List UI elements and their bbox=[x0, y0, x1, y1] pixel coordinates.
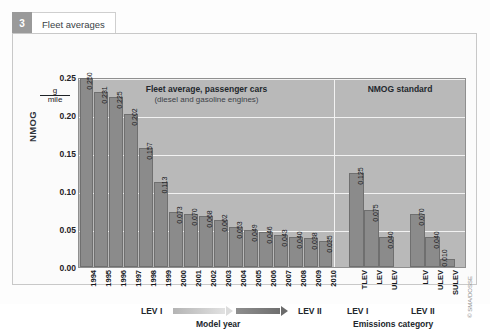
x-axis-title-right: Emissions category bbox=[353, 319, 433, 329]
bar-2008[interactable]: 0.040 bbox=[289, 237, 303, 267]
bar-2000[interactable]: 0.073 bbox=[169, 212, 183, 267]
arrow-head-light-icon bbox=[226, 306, 233, 316]
bar-LEVI-LEV[interactable]: 0.075 bbox=[364, 210, 379, 267]
bar-LEVI-TLEV[interactable]: 0.125 bbox=[349, 173, 364, 268]
x-axis-title-left: Model year bbox=[196, 319, 240, 329]
bar-value-label: 0.250 bbox=[86, 72, 93, 90]
bars-right: 0.1250.0750.0400.0700.0400.010 bbox=[335, 79, 465, 267]
arrow-head-dark-icon bbox=[281, 306, 288, 316]
bar-value-label: 0.035 bbox=[326, 235, 333, 253]
x-tick-1995: 1995 bbox=[104, 270, 113, 287]
x-tick-1999: 1999 bbox=[164, 270, 173, 287]
x-tick-2009: 2009 bbox=[314, 270, 323, 287]
bar-value-label: 0.225 bbox=[116, 91, 123, 109]
copyright-credit: © SMA/DOSSE bbox=[467, 276, 473, 318]
bar-value-label: 0.231 bbox=[101, 87, 108, 105]
x-tick-2005: 2005 bbox=[254, 270, 263, 287]
bar-value-label: 0.070 bbox=[418, 208, 425, 226]
x-tick-1997: 1997 bbox=[134, 270, 143, 287]
x-tick-LEVI-TLEV: TLEV bbox=[360, 270, 369, 289]
bar-value-label: 0.125 bbox=[357, 167, 364, 185]
bar-1995[interactable]: 0.231 bbox=[94, 92, 108, 267]
bar-value-label: 0.038 bbox=[311, 233, 318, 251]
bar-2010[interactable]: 0.035 bbox=[319, 241, 333, 267]
plot-area: Fleet average, passenger cars (diesel an… bbox=[78, 78, 466, 268]
bar-value-label: 0.040 bbox=[296, 231, 303, 249]
bar-value-label: 0.202 bbox=[131, 109, 138, 127]
bar-value-label: 0.157 bbox=[146, 143, 153, 161]
x-tick-2008: 2008 bbox=[299, 270, 308, 287]
bar-2002[interactable]: 0.068 bbox=[199, 216, 213, 267]
bar-LEVII-SULEV[interactable]: 0.010 bbox=[440, 259, 455, 267]
x-tick-2006: 2006 bbox=[269, 270, 278, 287]
bar-2001[interactable]: 0.070 bbox=[184, 214, 198, 267]
x-tick-LEVII-ULEV: ULEV bbox=[436, 270, 445, 290]
y-axis-unit: g mile bbox=[40, 87, 70, 105]
x-tick-LEVII-LEV: LEV bbox=[421, 270, 430, 285]
y-tick-3: 0.10 bbox=[40, 187, 76, 197]
x-tick-2000: 2000 bbox=[179, 270, 188, 287]
bar-value-label: 0.062 bbox=[221, 214, 228, 232]
x-tick-2002: 2002 bbox=[209, 270, 218, 287]
x-tick-2007: 2007 bbox=[284, 270, 293, 287]
bar-2009[interactable]: 0.038 bbox=[304, 238, 318, 267]
bar-2006[interactable]: 0.046 bbox=[259, 232, 273, 267]
panel-fleet-average: Fleet average, passenger cars (diesel an… bbox=[79, 79, 334, 267]
bar-LEVI-ULEV[interactable]: 0.040 bbox=[379, 237, 394, 267]
arrow-lev1-icon bbox=[173, 308, 225, 314]
x-tick-1998: 1998 bbox=[149, 270, 158, 287]
unit-denominator: mile bbox=[40, 95, 70, 104]
bar-value-label: 0.049 bbox=[251, 224, 258, 242]
bar-value-label: 0.040 bbox=[387, 231, 394, 249]
bar-value-label: 0.073 bbox=[176, 206, 183, 224]
bar-value-label: 0.113 bbox=[161, 176, 168, 193]
bar-value-label: 0.070 bbox=[191, 208, 198, 226]
x-tick-LEVII-SULEV: SULEV bbox=[451, 270, 460, 295]
bar-LEVII-ULEV[interactable]: 0.040 bbox=[425, 237, 440, 267]
tab-strip: 3 Fleet averages bbox=[12, 12, 116, 34]
bar-LEVII-LEV[interactable]: 0.070 bbox=[410, 214, 425, 267]
bar-1994[interactable]: 0.250 bbox=[80, 78, 94, 267]
x-tick-1994: 1994 bbox=[89, 270, 98, 287]
x-tick-1996: 1996 bbox=[119, 270, 128, 287]
era-label-end: LEV II bbox=[298, 306, 322, 316]
bar-2005[interactable]: 0.049 bbox=[244, 230, 258, 267]
group-label-lev1: LEV I bbox=[347, 306, 368, 316]
x-tick-LEVI-LEV: LEV bbox=[375, 270, 384, 285]
bar-2003[interactable]: 0.062 bbox=[214, 220, 228, 267]
bars-left: 0.2500.2310.2250.2020.1570.1130.0730.070… bbox=[79, 79, 334, 267]
bar-1996[interactable]: 0.225 bbox=[109, 97, 123, 267]
y-axis-tick-labels: 0.25 g mile 0.20 0.15 0.10 0.05 0.00 bbox=[40, 78, 76, 268]
bar-2007[interactable]: 0.043 bbox=[274, 235, 288, 268]
x-axis-tick-labels: 1994199519961997199819992000200120022003… bbox=[78, 270, 466, 302]
bar-value-label: 0.010 bbox=[441, 250, 448, 268]
bar-1998[interactable]: 0.157 bbox=[139, 148, 153, 267]
bar-value-label: 0.046 bbox=[266, 226, 273, 244]
era-label-start: LEV I bbox=[141, 306, 162, 316]
bar-1997[interactable]: 0.202 bbox=[124, 114, 138, 267]
x-tick-LEVI-ULEV: ULEV bbox=[390, 270, 399, 290]
unit-numerator: g bbox=[40, 87, 70, 95]
x-tick-2004: 2004 bbox=[239, 270, 248, 287]
y-tick-1: 0.20 bbox=[40, 111, 76, 121]
y-tick-0: 0.25 bbox=[40, 73, 76, 83]
bar-value-label: 0.043 bbox=[281, 229, 288, 247]
bar-value-label: 0.075 bbox=[372, 205, 379, 223]
bar-value-label: 0.040 bbox=[433, 231, 440, 249]
x-tick-2001: 2001 bbox=[194, 270, 203, 287]
x-tick-2010: 2010 bbox=[329, 270, 338, 287]
group-label-lev2: LEV II bbox=[411, 306, 435, 316]
arrow-lev2-icon bbox=[236, 308, 280, 314]
y-tick-4: 0.05 bbox=[40, 225, 76, 235]
y-tick-5: 0.00 bbox=[40, 263, 76, 273]
chart-figure: NMOG 0.25 g mile 0.20 0.15 0.10 0.05 0.0… bbox=[12, 33, 477, 285]
bar-1999[interactable]: 0.113 bbox=[154, 182, 168, 267]
tab-number-badge: 3 bbox=[12, 12, 32, 34]
y-tick-2: 0.15 bbox=[40, 149, 76, 159]
panel-nmog-standard: NMOG standard 0.1250.0750.0400.0700.0400… bbox=[335, 79, 465, 267]
era-arrow bbox=[173, 306, 288, 316]
y-axis-title: NMOG bbox=[27, 111, 38, 142]
bar-2004[interactable]: 0.053 bbox=[229, 227, 243, 267]
x-tick-2003: 2003 bbox=[224, 270, 233, 287]
